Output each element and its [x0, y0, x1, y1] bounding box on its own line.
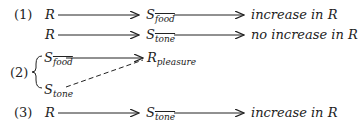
brace: [32, 56, 42, 88]
s-tone-node: Stone: [44, 83, 73, 96]
r-node: R: [45, 8, 55, 21]
result-no-increase: no increase in R: [251, 28, 358, 41]
r-pleasure-node: Rpleasure: [147, 51, 196, 64]
s-food-node: Sfood: [44, 51, 73, 64]
r-node: R: [45, 28, 55, 41]
result-increase: increase in R: [251, 8, 337, 21]
result-increase: increase in R: [251, 106, 337, 119]
s-tone-node: Stone: [146, 28, 175, 41]
dashed-stone-to-rpleasure: [66, 60, 143, 87]
label-2: (2): [10, 66, 28, 79]
r-node: R: [45, 106, 55, 119]
s-tone-node: Stone: [146, 106, 175, 119]
label-1: (1): [14, 8, 32, 21]
s-food-node: Sfood: [146, 8, 175, 21]
label-3: (3): [14, 106, 32, 119]
